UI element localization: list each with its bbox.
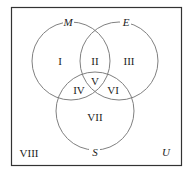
region-v: V	[91, 75, 99, 87]
region-vi: VI	[107, 84, 119, 96]
region-iii: III	[124, 55, 135, 67]
set-s-label: S	[92, 146, 98, 158]
set-e-label: E	[122, 16, 130, 28]
venn-diagram: M E S U I II III IV V VI VII VIII	[0, 0, 188, 176]
region-iv: IV	[73, 84, 85, 96]
region-vii: VII	[87, 111, 103, 123]
universe-label: U	[162, 146, 171, 158]
region-viii: VIII	[20, 147, 39, 159]
region-i: I	[58, 55, 62, 67]
region-ii: II	[91, 55, 99, 67]
set-m-label: M	[62, 16, 73, 28]
